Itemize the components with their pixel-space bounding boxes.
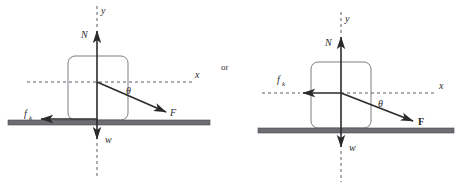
x-axis-label: x (194, 69, 200, 80)
block-body (68, 56, 128, 120)
ground-surface (258, 128, 454, 133)
angle-label: θ (126, 85, 131, 96)
normal-force-label: N (80, 29, 89, 40)
applied-force-label: F (418, 116, 424, 127)
ground-surface (8, 120, 210, 125)
x-axis-label: x (438, 80, 444, 91)
normal-force-label: N (324, 37, 333, 48)
weight-label: w (105, 134, 112, 145)
friction-label-symbol: f (24, 108, 28, 119)
friction-label-symbol: f (277, 74, 281, 85)
connector-or-label: or (221, 62, 229, 72)
applied-force-arrow (341, 93, 413, 121)
angle-label: θ (378, 98, 383, 109)
friction-label: f k (277, 74, 286, 88)
physics-free-body-diagram-figure: y x N w f k F θ or (0, 0, 464, 186)
left-diagram: y x N w f k F θ (8, 5, 210, 178)
friction-label-subscript: k (282, 80, 286, 88)
y-axis-label: y (100, 5, 106, 16)
y-axis-label: y (344, 13, 350, 24)
applied-force-arrow (97, 82, 166, 112)
applied-force-label: F (169, 107, 177, 118)
right-diagram: y x N w f k F θ (258, 12, 454, 182)
diagram-canvas: y x N w f k F θ or (0, 0, 464, 186)
weight-label: w (349, 142, 356, 153)
